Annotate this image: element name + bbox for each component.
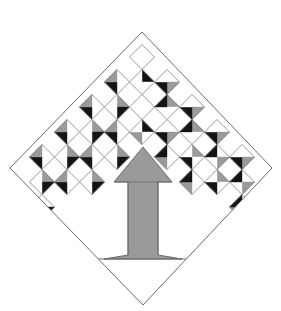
quilt-block-diagram: [0, 0, 281, 311]
